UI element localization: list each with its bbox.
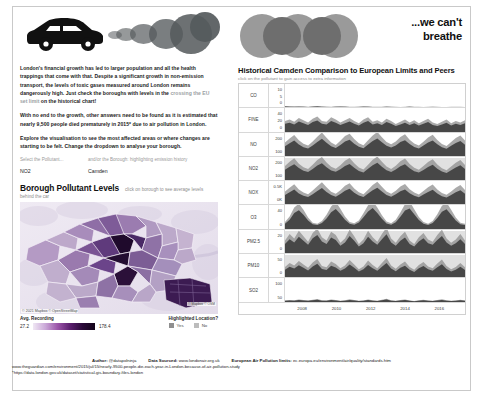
borough-selector[interactable]: and/or the Borough: highlighting emissio… [88, 157, 187, 174]
map-attribution-left[interactable]: © 2021 Mapbox © OpenStreetMap [21, 309, 78, 313]
ytick: 100 [275, 150, 282, 154]
chart-label-fine[interactable]: FINE [239, 108, 269, 131]
historical-chart-title: Historical Camden Comparison to European… [238, 66, 466, 75]
legend-min-value: 27.2 [20, 324, 29, 329]
chart-yticks-no: 200100 [269, 133, 285, 156]
pollutant-selector-value[interactable]: NO2 [20, 168, 88, 174]
borough-selector-label: and/or the Borough: highlighting emissio… [88, 157, 187, 164]
footer-source: Data Sourced: www.londonair.org.uk [148, 358, 219, 364]
chart-label-so2[interactable]: SO2 [239, 278, 269, 301]
legend-max-value: 178.4 [99, 324, 111, 329]
intro-p2-bold: nearly 9,500 people died prematurely in … [20, 121, 131, 127]
intro-paragraph-1: London's financial growth has led to lar… [20, 64, 218, 105]
chart-label-nox[interactable]: NOX [239, 181, 269, 204]
ytick: 20 [277, 234, 282, 238]
chart-plot-pm10[interactable] [285, 254, 465, 277]
ytick: 5 [280, 95, 282, 99]
intro-paragraph-3: Explore the visualisation to see the mos… [20, 134, 218, 151]
chart-row-pm25[interactable]: PM2.5200 [239, 230, 465, 254]
chart-yticks-pm25: 200 [269, 230, 285, 253]
chart-label-co[interactable]: CO [239, 84, 269, 107]
chart-label-no[interactable]: NO [239, 133, 269, 156]
london-borough-map[interactable]: © 2021 Mapbox © OpenStreetMap © Mapbox ©… [20, 202, 218, 314]
footer-source-value[interactable]: www.londonair.org.uk [179, 358, 220, 363]
chart-row-co[interactable]: CO1050 [239, 84, 465, 108]
breathe-headline: ...we can't breathe [411, 16, 462, 43]
highlighted-location-title: Highlighted Location? [169, 316, 218, 321]
ytick: 100 [275, 174, 282, 178]
chart-plot-so2[interactable] [285, 278, 465, 301]
map-attribution-right[interactable]: © Mapbox © OSM [187, 302, 216, 306]
swatch-no-icon [194, 323, 199, 328]
intro-p2-part-b: due to air pollution in London. [131, 121, 206, 127]
chart-plot-o3[interactable] [285, 205, 465, 228]
highlighted-location-items: Yes No [169, 323, 218, 328]
smoke-circles-icon [238, 12, 358, 60]
chart-row-no[interactable]: NO200100 [239, 133, 465, 157]
map-legend-row: Avg. Recording 27.2 178.4 Highlighted Lo… [20, 316, 218, 342]
swatch-yes-icon [169, 323, 174, 328]
footer-author-value: @datapolninja [109, 358, 137, 363]
chart-yticks-o3: 400 [269, 205, 285, 228]
ytick: 20 [277, 119, 282, 123]
footer-limits-label: European Air Pollution limits: [232, 358, 292, 363]
axis-tick-labels: 20082010201220142016 [285, 303, 465, 314]
chart-x-axis: 20082010201220142016 [239, 303, 465, 314]
chart-row-o3[interactable]: O3400 [239, 205, 465, 229]
chart-plot-pm25[interactable] [285, 230, 465, 253]
chart-row-no2[interactable]: NO2200100 [239, 157, 465, 181]
legend-item-no[interactable]: No [194, 323, 208, 328]
chart-plot-fine[interactable] [285, 108, 465, 131]
ytick: 0.5K [274, 185, 282, 189]
chart-row-so2[interactable]: SO210050 [239, 278, 465, 302]
left-column: London's financial growth has led to lar… [20, 8, 218, 342]
historical-pollutant-charts[interactable]: CO1050FINE40200NO200100NO2200100NOX0.5K0… [238, 83, 466, 315]
xtick: 2012 [366, 306, 376, 311]
footer-dataset-link[interactable]: *https://data.london.gov.uk/dataset/stat… [12, 370, 471, 376]
footer-limits-value[interactable]: ec.europa.eu/environment/air/quality/sta… [293, 358, 391, 363]
pollutant-selector[interactable]: Select the Pollutant... NO2 [20, 157, 88, 174]
legend-item-yes[interactable]: Yes [169, 323, 184, 328]
chart-yticks-fine: 40200 [269, 108, 285, 131]
borough-section-header: Borough Pollutant Levels click on boroug… [20, 183, 218, 193]
chart-plot-co[interactable] [285, 84, 465, 107]
ytick: 0 [280, 101, 282, 105]
chart-plot-nox[interactable] [285, 181, 465, 204]
chart-plot-no[interactable] [285, 133, 465, 156]
car-smoke-illustration [20, 8, 218, 60]
ytick: 0K [277, 198, 282, 202]
chart-yticks-co: 1050 [269, 84, 285, 107]
chart-yticks-no2: 200100 [269, 157, 285, 180]
ytick: 10 [277, 88, 282, 92]
borough-selector-value[interactable]: Camden [88, 168, 187, 174]
ytick: 0 [280, 126, 282, 130]
chart-yticks-so2: 10050 [269, 278, 285, 301]
right-column: ...we can't breathe Historical Camden Co… [238, 8, 466, 315]
dashboard-page: London's financial growth has led to lar… [0, 0, 483, 403]
chart-yticks-nox: 0.5K0K [269, 181, 285, 204]
chart-yticks-pm10: 500 [269, 254, 285, 277]
car-icon [26, 14, 106, 54]
chart-label-no2[interactable]: NO2 [239, 157, 269, 180]
chart-row-fine[interactable]: FINE40200 [239, 108, 465, 132]
axis-spacer [239, 303, 285, 314]
chart-label-pm10[interactable]: PM10 [239, 254, 269, 277]
chart-label-o3[interactable]: O3 [239, 205, 269, 228]
xtick: 2008 [297, 306, 307, 311]
selector-row: Select the Pollutant... NO2 and/or the B… [20, 157, 218, 174]
footer-source-label: Data Sourced: [148, 358, 177, 363]
ytick: 50 [277, 258, 282, 262]
intro-paragraph-2: With no end to the growth, other answers… [20, 111, 218, 128]
xtick: 2014 [400, 306, 410, 311]
ytick: 50 [277, 296, 282, 300]
ytick: 40 [277, 209, 282, 213]
chart-row-pm10[interactable]: PM10500 [239, 254, 465, 278]
chart-label-pm25[interactable]: PM2.5 [239, 230, 269, 253]
borough-section-subtitle-2: behind the car [20, 194, 218, 199]
chart-row-nox[interactable]: NOX0.5K0K [239, 181, 465, 205]
footer-author-label: Author: [92, 358, 108, 363]
ytick: 0 [280, 223, 282, 227]
pollutant-selector-label: Select the Pollutant... [20, 157, 88, 164]
chart-plot-no2[interactable] [285, 157, 465, 180]
map-svg[interactable] [20, 202, 218, 314]
